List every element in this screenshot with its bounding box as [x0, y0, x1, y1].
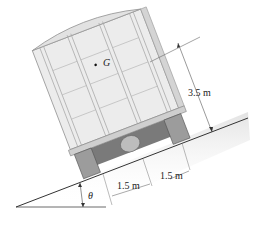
angle-label: θ — [88, 191, 93, 201]
left-offset-label: 1.5 m — [117, 181, 140, 191]
center-of-gravity-label: G — [103, 58, 110, 68]
height-dimension-label: 3.5 m — [188, 88, 211, 98]
diagram-canvas — [0, 0, 262, 226]
right-offset-label: 1.5 m — [160, 171, 183, 181]
